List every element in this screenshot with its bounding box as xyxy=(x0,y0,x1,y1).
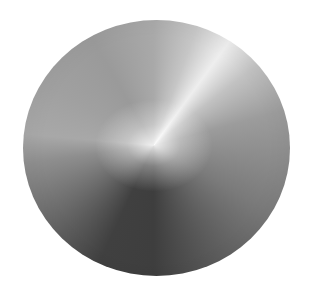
canvas xyxy=(0,0,310,295)
metallic-disc xyxy=(23,20,290,276)
